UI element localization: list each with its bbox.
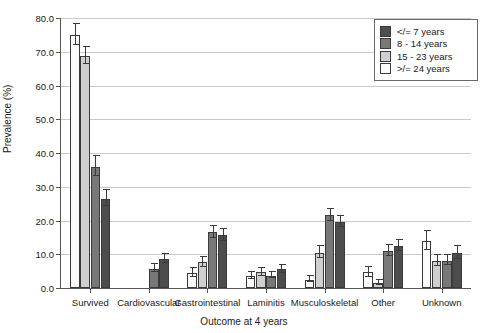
legend-item-label: 15 - 23 years xyxy=(397,51,452,62)
x-tick-label: Survived xyxy=(72,297,109,308)
error-bar xyxy=(319,245,320,259)
error-bar xyxy=(271,271,272,278)
bar[interactable] xyxy=(208,232,218,288)
bar[interactable] xyxy=(373,283,383,288)
bar[interactable] xyxy=(149,269,159,288)
bar-slot xyxy=(305,18,315,288)
bar[interactable] xyxy=(305,280,315,288)
y-tick-label: 0.0 xyxy=(41,283,54,294)
error-bar xyxy=(457,245,458,259)
bar[interactable] xyxy=(187,273,197,288)
y-axis-title: Prevalence (%) xyxy=(2,85,13,153)
bar-slot xyxy=(315,18,325,288)
x-tick-mark xyxy=(325,288,326,293)
legend-item-label: 8 - 14 years xyxy=(397,38,447,49)
bar[interactable] xyxy=(325,215,335,288)
bar-group: Cardiovascular xyxy=(120,18,179,288)
bar[interactable] xyxy=(452,253,462,288)
bar-chart: Prevalence (%) 0.010.020.030.040.050.060… xyxy=(0,0,488,333)
bar-slot xyxy=(246,18,256,288)
bar[interactable] xyxy=(266,276,276,288)
legend-item-label: >/= 24 years xyxy=(397,63,450,74)
bar-slot xyxy=(208,18,218,288)
bar[interactable] xyxy=(70,35,80,288)
error-bar xyxy=(164,253,165,264)
y-tick-mark xyxy=(56,288,61,289)
bar-group: Laminitis xyxy=(237,18,296,288)
error-bar xyxy=(223,228,224,242)
bar[interactable] xyxy=(442,261,452,288)
bar[interactable] xyxy=(91,167,101,289)
x-tick-mark xyxy=(266,288,267,293)
bar[interactable] xyxy=(198,262,208,288)
bar-slot xyxy=(335,18,345,288)
bar-slot xyxy=(139,18,149,288)
bar-slot xyxy=(129,18,139,288)
bar[interactable] xyxy=(335,222,345,288)
error-bar xyxy=(75,23,76,45)
y-tick-label: 60.0 xyxy=(36,80,55,91)
bar-slot xyxy=(149,18,159,288)
legend-swatch-icon xyxy=(380,63,391,74)
error-bar xyxy=(106,189,107,207)
bar[interactable] xyxy=(159,259,169,288)
error-bar xyxy=(340,215,341,227)
y-tick-label: 10.0 xyxy=(36,249,55,260)
x-tick-label: Unknown xyxy=(422,297,462,308)
error-bar xyxy=(281,264,282,273)
bar-slot xyxy=(159,18,169,288)
x-tick-label: Cardiovascular xyxy=(117,297,180,308)
error-bar xyxy=(251,271,252,279)
bar-slot xyxy=(101,18,111,288)
bar[interactable] xyxy=(363,272,373,288)
x-tick-mark xyxy=(442,288,443,293)
bar-group: Musculoskeletal xyxy=(295,18,354,288)
legend-item[interactable]: </= 7 years xyxy=(380,26,472,37)
legend-swatch-icon xyxy=(380,51,391,62)
error-bar xyxy=(398,239,399,251)
bar[interactable] xyxy=(383,251,393,288)
y-tick-label: 70.0 xyxy=(36,46,55,57)
x-tick-label: Other xyxy=(371,297,395,308)
y-tick-label: 30.0 xyxy=(36,181,55,192)
bar[interactable] xyxy=(80,56,90,288)
bar-slot xyxy=(363,18,373,288)
error-bar xyxy=(330,208,331,222)
bar[interactable] xyxy=(394,246,404,288)
bar-slot xyxy=(80,18,90,288)
x-axis-title: Outcome at 4 years xyxy=(0,316,488,327)
bar[interactable] xyxy=(432,261,442,288)
legend-swatch-icon xyxy=(380,38,391,49)
bar-slot xyxy=(218,18,228,288)
legend-item-label: </= 7 years xyxy=(397,26,445,37)
bar[interactable] xyxy=(256,272,266,288)
bar[interactable] xyxy=(218,235,228,288)
bar-slot xyxy=(277,18,287,288)
bar[interactable] xyxy=(101,199,111,288)
x-tick-mark xyxy=(90,288,91,293)
legend-item[interactable]: 15 - 23 years xyxy=(380,51,472,62)
error-bar xyxy=(154,263,155,272)
bar-slot xyxy=(91,18,101,288)
error-bar xyxy=(426,230,427,250)
x-tick-mark xyxy=(149,288,150,293)
y-tick-label: 20.0 xyxy=(36,215,55,226)
bar-slot xyxy=(325,18,335,288)
legend-swatch-icon xyxy=(380,26,391,37)
bar[interactable] xyxy=(277,269,287,288)
y-tick-label: 40.0 xyxy=(36,148,55,159)
legend: </= 7 years8 - 14 years15 - 23 years>/= … xyxy=(374,19,478,81)
bar[interactable] xyxy=(315,253,325,288)
error-bar xyxy=(95,155,96,177)
legend-item[interactable]: >/= 24 years xyxy=(380,63,472,74)
x-tick-label: Laminitis xyxy=(247,297,285,308)
bar[interactable] xyxy=(246,276,256,288)
y-tick-label: 80.0 xyxy=(36,13,55,24)
bar-group: Gastrointestinal xyxy=(178,18,237,288)
bar-slot xyxy=(256,18,266,288)
x-tick-mark xyxy=(207,288,208,293)
error-bar xyxy=(192,267,193,277)
error-bar xyxy=(388,244,389,256)
legend-item[interactable]: 8 - 14 years xyxy=(380,38,472,49)
bar[interactable] xyxy=(422,241,432,288)
